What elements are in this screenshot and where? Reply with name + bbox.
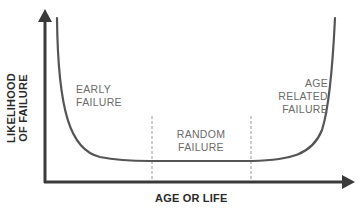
random-failure-label: RANDOM FAILURE: [170, 128, 232, 154]
early-failure-line1: EARLY: [76, 83, 122, 96]
y-axis-label-line2: OF FAILURE: [17, 58, 29, 158]
x-axis-label: AGE OR LIFE: [155, 192, 227, 204]
random-failure-line1: RANDOM: [170, 128, 232, 141]
y-axis-label-line1: LIKELIHOOD: [5, 58, 17, 158]
early-failure-label: EARLY FAILURE: [76, 83, 122, 109]
age-related-line3: FAILURE: [270, 103, 328, 116]
x-axis-arrow-icon: [342, 175, 355, 189]
age-related-line1: AGE: [270, 77, 328, 90]
age-related-failure-label: AGE RELATED FAILURE: [270, 77, 328, 116]
early-failure-line2: FAILURE: [76, 96, 122, 109]
y-axis-label: LIKELIHOOD OF FAILURE: [5, 58, 29, 158]
random-failure-line2: FAILURE: [170, 141, 232, 154]
age-related-line2: RELATED: [270, 90, 328, 103]
y-axis-arrow-icon: [38, 9, 52, 22]
